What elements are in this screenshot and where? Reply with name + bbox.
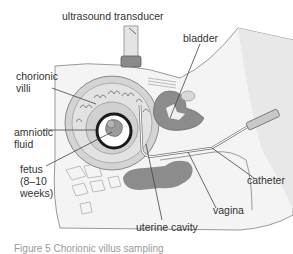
label-fetus-line1: fetus bbox=[20, 163, 43, 175]
label-uterine-cavity: uterine cavity bbox=[136, 221, 198, 233]
label-vagina: vagina bbox=[213, 204, 244, 216]
fetus-head bbox=[107, 120, 115, 128]
label-ultrasound-transducer: ultrasound transducer bbox=[62, 10, 164, 22]
label-chorionic-villi-line1: chorionic bbox=[16, 70, 58, 82]
label-amniotic-fluid-line2: fluid bbox=[14, 138, 33, 150]
label-chorionic-villi-line2: villi bbox=[16, 82, 31, 94]
label-fetus-line2: (8–10 bbox=[20, 175, 47, 187]
label-fetus-line3: weeks) bbox=[20, 187, 53, 199]
figure-caption: Figure 5 Chorionic villus sampling bbox=[14, 243, 164, 254]
pubic-bone bbox=[181, 91, 195, 101]
transducer-head bbox=[121, 56, 141, 67]
transducer-shaft bbox=[124, 26, 138, 58]
label-bladder: bladder bbox=[183, 32, 218, 44]
label-amniotic-fluid-line1: amniotic bbox=[14, 126, 53, 138]
label-catheter: catheter bbox=[247, 174, 285, 186]
